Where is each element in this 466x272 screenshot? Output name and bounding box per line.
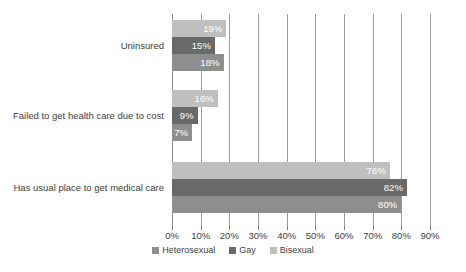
bar-row: 7% [172,124,430,141]
legend-item-heterosexual[interactable]: Heterosexual [152,246,215,255]
bar-bisexual[interactable]: 19% [172,20,226,37]
bar-row: 76% [172,162,430,179]
legend-label: Gay [239,246,256,255]
category-label-failed-care: Failed to get health care due to cost [13,111,164,121]
legend-item-gay[interactable]: Gay [229,246,256,255]
x-tick-label-0: 0% [165,231,179,241]
x-tick-label-50: 50% [306,231,325,241]
chart-legend: HeterosexualGayBisexual [0,246,466,255]
legend-label: Bisexual [280,246,314,255]
x-tick-label-70: 70% [363,231,382,241]
x-tick-label-60: 60% [334,231,353,241]
bar-row: 18% [172,54,430,71]
gridline-90 [430,14,431,226]
bar-value-label: 80% [378,200,401,210]
legend-swatch-icon [229,247,236,254]
x-tick-label-40: 40% [277,231,296,241]
category-label-usual-place: Has usual place to get medical care [14,183,165,193]
bar-value-label: 76% [367,166,390,176]
bar-group: 76%82%80% [172,162,430,213]
bar-heterosexual[interactable]: 7% [172,124,192,141]
x-tick-label-90: 90% [420,231,439,241]
bar-value-label: 9% [180,111,198,121]
bar-bisexual[interactable]: 16% [172,90,218,107]
bar-value-label: 7% [174,128,192,138]
category-label-uninsured: Uninsured [121,41,164,51]
legend-swatch-icon [270,247,277,254]
bar-group: 16%9%7% [172,90,430,141]
bar-value-label: 82% [384,183,407,193]
bar-value-label: 15% [192,41,215,51]
legend-item-bisexual[interactable]: Bisexual [270,246,314,255]
category-axis-labels: Uninsured Failed to get health care due … [0,14,168,226]
x-axis: 0%10%20%30%40%50%60%70%80%90% [172,226,430,242]
bar-row: 9% [172,107,430,124]
bar-heterosexual[interactable]: 80% [172,196,401,213]
x-tick-label-30: 30% [248,231,267,241]
bar-row: 15% [172,37,430,54]
bar-heterosexual[interactable]: 18% [172,54,224,71]
bar-row: 16% [172,90,430,107]
bar-row: 80% [172,196,430,213]
bar-row: 82% [172,179,430,196]
bar-chart: Uninsured Failed to get health care due … [0,0,466,272]
x-tick-label-80: 80% [392,231,411,241]
bar-value-label: 19% [203,24,226,34]
plot-area: 19%15%18%16%9%7%76%82%80% [172,14,430,226]
bar-value-label: 18% [200,58,223,68]
legend-swatch-icon [152,247,159,254]
x-tick-label-10: 10% [191,231,210,241]
bar-bisexual[interactable]: 76% [172,162,390,179]
bar-group: 19%15%18% [172,20,430,71]
bar-gay[interactable]: 15% [172,37,215,54]
bar-groups: 19%15%18%16%9%7%76%82%80% [172,14,430,226]
bar-gay[interactable]: 82% [172,179,407,196]
legend-label: Heterosexual [162,246,215,255]
bar-row: 19% [172,20,430,37]
bar-gay[interactable]: 9% [172,107,198,124]
bar-value-label: 16% [195,94,218,104]
x-tick-label-20: 20% [220,231,239,241]
